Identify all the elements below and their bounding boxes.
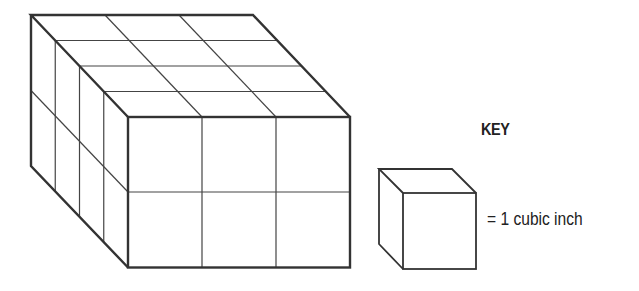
key-label: = 1 cubic inch (487, 208, 583, 230)
top-face-grid (55, 15, 326, 117)
diagram-canvas (0, 0, 639, 291)
rectangular-prism (31, 15, 350, 268)
side-face-grid (31, 41, 128, 243)
front-face-grid (128, 117, 350, 268)
key-title: KEY (481, 120, 509, 140)
unit-cube-key-icon (379, 169, 476, 269)
